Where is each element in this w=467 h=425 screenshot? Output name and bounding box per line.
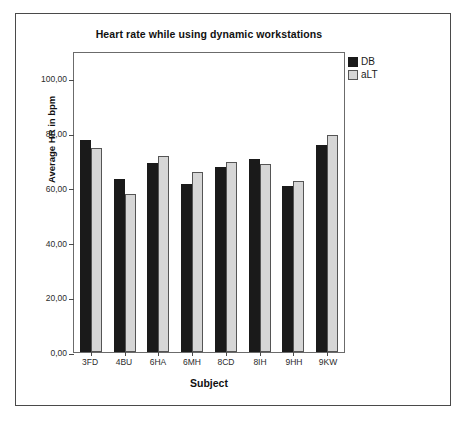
- x-tick-label: 9HH: [277, 357, 311, 367]
- legend-item-alt: aLT: [348, 69, 408, 81]
- bar-db-8ih: [249, 159, 260, 352]
- bar-db-8cd: [215, 167, 226, 352]
- y-tick-label: 60,00: [46, 184, 67, 194]
- bar-db-6ha: [147, 163, 158, 352]
- y-tick-label: 80,00: [46, 129, 67, 139]
- bar-alt-4bu: [125, 194, 136, 352]
- x-tick-mark: [327, 352, 328, 356]
- x-tick-mark: [260, 352, 261, 356]
- x-tick-mark: [91, 352, 92, 356]
- bar-alt-8cd: [226, 162, 237, 352]
- legend-swatch-alt: [348, 70, 358, 80]
- bar-group: [310, 53, 344, 352]
- y-tick-mark: [69, 354, 74, 355]
- x-tick-label: 8IH: [243, 357, 277, 367]
- bar-alt-6ha: [158, 156, 169, 352]
- bar-db-6mh: [181, 184, 192, 352]
- y-tick-label: 20,00: [46, 293, 67, 303]
- legend: DBaLT: [348, 56, 408, 82]
- bar-alt-3fd: [91, 148, 102, 352]
- chart-title: Heart rate while using dynamic workstati…: [73, 28, 345, 40]
- y-tick-label: 100,00: [41, 74, 67, 84]
- bar-alt-9kw: [327, 135, 338, 352]
- x-tick-mark: [192, 352, 193, 356]
- bar-alt-9hh: [293, 181, 304, 352]
- bar-group: [243, 53, 277, 352]
- bar-alt-6mh: [192, 172, 203, 352]
- x-tick-label: 4BU: [107, 357, 141, 367]
- legend-swatch-db: [348, 57, 358, 67]
- bar-alt-8ih: [260, 164, 271, 352]
- bar-db-4bu: [114, 179, 125, 352]
- x-tick-mark: [226, 352, 227, 356]
- bar-db-3fd: [80, 140, 91, 352]
- bar-series-layer: [74, 53, 344, 352]
- bar-group: [277, 53, 311, 352]
- x-tick-label: 8CD: [209, 357, 243, 367]
- legend-label: DB: [361, 57, 375, 67]
- plot-area: Average HR in bpm 0,0020,0040,0060,0080,…: [73, 52, 345, 353]
- x-tick-mark: [125, 352, 126, 356]
- x-tick-label: 6HA: [141, 357, 175, 367]
- x-tick-label: 6MH: [175, 357, 209, 367]
- y-tick-label: 40,00: [46, 239, 67, 249]
- bar-group: [209, 53, 243, 352]
- x-tick-label: 3FD: [73, 357, 107, 367]
- legend-item-db: DB: [348, 56, 408, 68]
- legend-label: aLT: [361, 70, 378, 80]
- bar-db-9hh: [282, 186, 293, 352]
- y-tick-label: 0,00: [50, 348, 67, 358]
- x-tick-mark: [293, 352, 294, 356]
- bar-group: [142, 53, 176, 352]
- bar-db-9kw: [316, 145, 327, 352]
- bar-group: [108, 53, 142, 352]
- x-axis-label: Subject: [73, 377, 345, 389]
- x-tick-mark: [158, 352, 159, 356]
- y-axis-label: Average HR in bpm: [46, 96, 57, 183]
- plot-inner: 0,0020,0040,0060,0080,00100,00: [74, 53, 344, 352]
- x-tick-label: 9KW: [311, 357, 345, 367]
- bar-group: [74, 53, 108, 352]
- bar-group: [175, 53, 209, 352]
